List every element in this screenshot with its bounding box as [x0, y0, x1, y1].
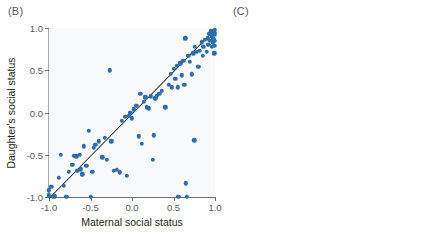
scatter-point — [82, 144, 86, 148]
panel-b-yticklabel-2: 0.5 — [30, 65, 43, 76]
panel-b: (B) 1.0 0.5 0.0 -0.5 -1.0 -1.0 -0.5 0.0 … — [0, 0, 228, 235]
scatter-point — [198, 49, 202, 53]
scatter-point — [62, 184, 66, 188]
panel-b-plot-area: 1.0 0.5 0.0 -0.5 -1.0 -1.0 -0.5 0.0 0.5 … — [48, 28, 215, 198]
panel-b-xticklabel-1: -1.0 — [41, 202, 57, 213]
panel-c-label: (C) — [233, 5, 249, 17]
scatter-point — [130, 116, 134, 120]
panel-b-xticklabel-3: 0.0 — [125, 202, 138, 213]
scatter-point — [125, 174, 129, 178]
scatter-point — [196, 65, 200, 69]
scatter-point — [176, 195, 180, 199]
scatter-point — [190, 72, 194, 76]
scatter-point — [90, 169, 94, 173]
figure-panels-b-c: (B) 1.0 0.5 0.0 -0.5 -1.0 -1.0 -0.5 0.0 … — [0, 0, 445, 235]
scatter-point — [180, 73, 184, 77]
scatter-point — [160, 88, 164, 92]
scatter-point — [201, 44, 205, 48]
scatter-point — [80, 172, 84, 176]
scatter-point — [182, 82, 186, 86]
panel-b-xticklabel-2: -0.5 — [82, 202, 98, 213]
scatter-point — [192, 138, 196, 142]
scatter-point — [97, 139, 101, 143]
scatter-point — [100, 155, 104, 159]
scatter-point — [151, 158, 155, 162]
scatter-point — [84, 164, 88, 168]
panel-b-ytick-4 — [45, 155, 49, 156]
panel-b-yaxis-title: Daughter's social status — [5, 57, 17, 168]
scatter-point — [212, 44, 216, 48]
scatter-point — [64, 195, 68, 199]
scatter-point — [47, 188, 51, 192]
scatter-point — [175, 85, 179, 89]
scatter-point — [212, 51, 216, 55]
panel-b-xtick-3 — [132, 197, 133, 201]
scatter-point — [109, 139, 113, 143]
scatter-point — [67, 169, 71, 173]
panel-b-yticklabel-5: -1.0 — [27, 192, 43, 203]
scatter-point — [93, 142, 97, 146]
panel-b-ytick-3 — [45, 113, 49, 114]
panel-b-label: (B) — [8, 5, 23, 17]
scatter-point — [163, 105, 167, 109]
scatter-point — [146, 106, 150, 110]
scatter-point — [107, 68, 111, 72]
scatter-point — [49, 185, 53, 189]
scatter-point — [78, 153, 82, 157]
panel-b-ytick-1 — [45, 28, 49, 29]
scatter-point — [87, 129, 91, 133]
scatter-point — [169, 71, 173, 75]
scatter-point — [105, 158, 109, 162]
scatter-point — [173, 76, 177, 80]
scatter-point — [181, 59, 185, 63]
scatter-point — [213, 38, 217, 42]
scatter-point — [151, 133, 155, 137]
panel-b-yticklabel-3: 0.0 — [30, 107, 43, 118]
scatter-point — [117, 170, 121, 174]
scatter-point — [138, 92, 142, 96]
scatter-point — [204, 49, 208, 53]
scatter-point — [157, 92, 161, 96]
panel-b-ytick-2 — [45, 70, 49, 71]
scatter-point — [88, 195, 92, 199]
scatter-point — [184, 181, 188, 185]
panel-b-xtick-4 — [174, 197, 175, 201]
panel-b-xticklabel-4: 0.5 — [167, 202, 180, 213]
scatter-point — [170, 85, 174, 89]
scatter-point — [70, 163, 74, 167]
scatter-point — [57, 175, 61, 179]
scatter-point — [200, 54, 204, 58]
panel-b-xtick-5 — [215, 197, 216, 201]
panel-b-yticklabel-1: 1.0 — [30, 23, 43, 34]
scatter-point — [140, 142, 144, 146]
scatter-point — [188, 60, 192, 64]
panel-b-xaxis-title: Maternal social status — [81, 216, 183, 228]
scatter-point — [185, 195, 189, 199]
scatter-point — [78, 167, 82, 171]
scatter-point — [213, 31, 217, 35]
scatter-point — [186, 54, 190, 58]
scatter-point — [53, 194, 57, 198]
scatter-point — [141, 99, 145, 103]
scatter-point — [183, 36, 187, 40]
scatter-point — [58, 153, 62, 157]
panel-b-yticklabel-4: -0.5 — [27, 149, 43, 160]
scatter-point — [136, 134, 140, 138]
panel-c: (C) 8 7 6 5 4 3 2 High Medium Low Matern — [228, 0, 445, 235]
panel-b-xticklabel-5: 1.0 — [208, 202, 221, 213]
